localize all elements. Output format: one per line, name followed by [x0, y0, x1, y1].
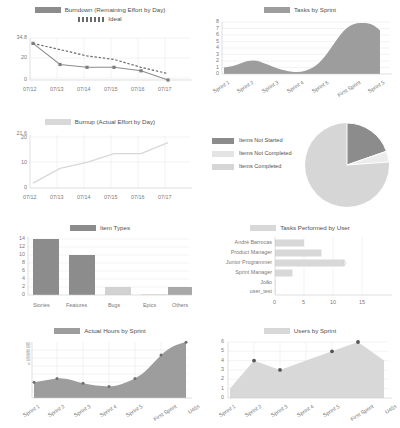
burndown-ytick-min: 0	[2, 77, 27, 82]
burnup-xtick-1: 07/13	[50, 195, 64, 200]
tasks-by-user-xtick-0: 0	[273, 300, 276, 305]
items-pie-legend: Items Not Started Items Not Completed It…	[212, 138, 292, 177]
metrics-dashboard: Burndown (Remaining Effort by Day) Ideal	[0, 0, 400, 428]
panel-burndown: Burndown (Remaining Effort by Day) Ideal	[0, 0, 200, 110]
legend-label-not-started: Items Not Started	[239, 138, 283, 144]
burndown-xtick-4: 07/16	[131, 87, 145, 92]
tasks-by-sprint-plot: 8 7 6 5 4 3 2 1 0 Sprint 1 Sprint 2 Spri…	[200, 0, 400, 110]
bar-features[interactable]	[69, 255, 95, 295]
item-types-ytick-0: 0	[2, 292, 25, 297]
tasks-by-user-xtick-5: 5	[302, 300, 305, 305]
panel-items-pie: Items Not Started Items Not Completed It…	[200, 110, 400, 215]
burndown-plot: 34.8 20 0 07/12 07/13 07/14 07/15 07/16 …	[0, 0, 200, 110]
tasks-by-user-svg	[200, 215, 400, 320]
tasks-ytick-6: 6	[200, 32, 219, 37]
user-label-andre: André Barrocas	[204, 240, 272, 245]
item-types-xtick-0: Stories	[33, 303, 50, 308]
users-ytick-4: 4	[204, 358, 224, 363]
item-types-ytick-4: 4	[2, 276, 25, 281]
item-types-ytick-2: 2	[2, 284, 25, 289]
panel-tasks-by-sprint: Tasks by Sprint 8 7 6	[200, 0, 400, 110]
burndown-xtick-1: 07/13	[50, 87, 64, 92]
bar-bugs[interactable]	[105, 287, 131, 295]
burndown-ideal-line	[33, 43, 168, 73]
burnup-ytick-10: 10	[2, 160, 27, 165]
burndown-actual-markers	[31, 42, 169, 82]
legend-item-not-completed[interactable]: Items Not Completed	[212, 151, 292, 157]
actual-hours-yaxis-ticks: 60 50 40 30 20 10 0	[10, 342, 30, 365]
burndown-xtick-0: 07/12	[23, 87, 37, 92]
users-ytick-5: 5	[204, 348, 224, 353]
bar-user-andre[interactable]	[275, 240, 304, 247]
tasks-ytick-8: 8	[200, 19, 219, 24]
item-types-ytick-14: 14	[2, 236, 25, 241]
item-types-plot: 14 12 10 8 6 4 2 0 Stories Features Bugs…	[0, 215, 200, 320]
users-ytick-1: 1	[204, 386, 224, 391]
tasks-by-user-xtick-15: 15	[359, 300, 365, 305]
item-types-ytick-10: 10	[2, 252, 25, 257]
bar-user-product-manager[interactable]	[275, 250, 321, 257]
legend-item-not-started[interactable]: Items Not Started	[212, 138, 292, 144]
burnup-xtick-0: 07/12	[23, 195, 37, 200]
burndown-xtick-5: 07/17	[158, 87, 172, 92]
bar-user-junior-programmer[interactable]	[275, 260, 345, 267]
panel-item-types: Item Types 1	[0, 215, 200, 320]
legend-label-not-completed: Items Not Completed	[239, 151, 292, 157]
items-pie-plot	[300, 118, 400, 213]
bar-user-sprint-manager[interactable]	[275, 270, 292, 277]
item-types-xtick-4: Others	[172, 303, 188, 308]
burnup-ytick-0: 0	[2, 185, 27, 190]
tasks-by-user-xtick-10: 10	[330, 300, 336, 305]
completed-swatch	[212, 164, 234, 170]
panel-users-by-sprint: Users by Sprint	[200, 320, 400, 428]
panel-actual-hours: Actual Hours by Sprint	[0, 320, 200, 428]
burnup-xtick-4: 07/16	[131, 195, 145, 200]
not-started-swatch	[212, 138, 234, 144]
burnup-xtick-3: 07/15	[104, 195, 118, 200]
burndown-svg	[0, 0, 200, 110]
burndown-ytick-max: 34.8	[2, 35, 27, 40]
legend-label-completed: Items Completed	[239, 164, 281, 170]
not-completed-swatch	[212, 151, 234, 157]
panel-burnup: Burnup (Actual Effort by Day) 21.6 20	[0, 110, 200, 215]
burnup-xtick-2: 07/14	[77, 195, 91, 200]
burndown-actual-line	[33, 43, 168, 80]
actual-hours-ytick-0: 0	[28, 361, 30, 366]
burndown-xtick-3: 07/15	[104, 87, 118, 92]
tasks-ytick-4: 4	[200, 45, 219, 50]
item-types-ytick-6: 6	[2, 268, 25, 273]
bar-others[interactable]	[168, 287, 192, 295]
tasks-ytick-0: 0	[200, 71, 219, 76]
users-ytick-3: 3	[204, 367, 224, 372]
item-types-xtick-2: Bugs	[108, 303, 120, 308]
burnup-plot: 21.6 20 10 0 07/12 07/13 07/14 07/15 07/…	[0, 110, 200, 215]
panel-tasks-by-user: Tasks Performed by User André Barrocas	[200, 215, 400, 320]
legend-item-completed[interactable]: Items Completed	[212, 164, 292, 170]
tasks-area	[224, 23, 380, 74]
user-label-product-manager: Product Manager	[204, 250, 272, 255]
user-label-joao: João	[204, 280, 272, 285]
tasks-ytick-2: 2	[200, 58, 219, 63]
burnup-line	[33, 143, 168, 183]
users-by-sprint-plot: 6 5 4 3 2 1 0 Sprint 1 Sprint 2 Sprint 3…	[200, 320, 400, 428]
burndown-xtick-2: 07/14	[77, 87, 91, 92]
actual-hours-plot: 60 50 40 30 20 10 0 Sprint 1 Sprint 2 Sp…	[0, 320, 200, 428]
burnup-xtick-5: 07/17	[158, 195, 172, 200]
users-area	[230, 342, 384, 398]
users-ytick-0: 0	[204, 395, 224, 400]
user-label-user-test: user_test	[204, 289, 272, 294]
user-label-junior-programmer: Junior Programmer	[204, 260, 272, 265]
burndown-gridlines	[30, 38, 190, 78]
tasks-by-user-plot: André Barrocas Product Manager Junior Pr…	[200, 215, 400, 320]
item-types-svg	[0, 215, 200, 320]
users-ytick-2: 2	[204, 376, 224, 381]
burnup-ytick-20: 20	[2, 135, 27, 140]
item-types-xtick-1: Features	[66, 303, 87, 308]
item-types-ytick-12: 12	[2, 244, 25, 249]
bar-stories[interactable]	[33, 239, 59, 295]
burndown-ytick-mid: 20	[2, 55, 27, 60]
item-types-xtick-3: Epics	[143, 303, 156, 308]
items-pie-svg	[300, 118, 400, 213]
user-label-sprint-manager: Sprint Manager	[204, 270, 272, 275]
users-ytick-6: 6	[204, 339, 224, 344]
